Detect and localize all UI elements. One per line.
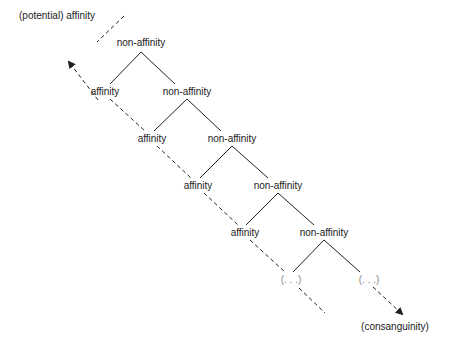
node-non-affinity: non-affinity bbox=[208, 134, 257, 144]
node-non-affinity: non-affinity bbox=[300, 228, 349, 238]
affinity-dashed-axis bbox=[69, 16, 402, 314]
node-affinity: affinity bbox=[231, 228, 260, 238]
tree-diagram-lines bbox=[0, 0, 449, 346]
node-non-affinity: non-affinity bbox=[163, 87, 212, 97]
node-affinity: affinity bbox=[184, 181, 213, 191]
node-ellipsis: (. . .) bbox=[281, 275, 302, 285]
consanguinity-label: (consanguinity) bbox=[361, 322, 429, 332]
node-affinity: affinity bbox=[91, 87, 120, 97]
node-non-affinity: non-affinity bbox=[254, 181, 303, 191]
node-affinity: affinity bbox=[138, 134, 167, 144]
node-non-affinity: non-affinity bbox=[117, 38, 166, 48]
node-ellipsis: (. . .) bbox=[359, 275, 380, 285]
potential-affinity-label: (potential) affinity bbox=[19, 11, 95, 21]
tree-edges bbox=[110, 52, 360, 272]
